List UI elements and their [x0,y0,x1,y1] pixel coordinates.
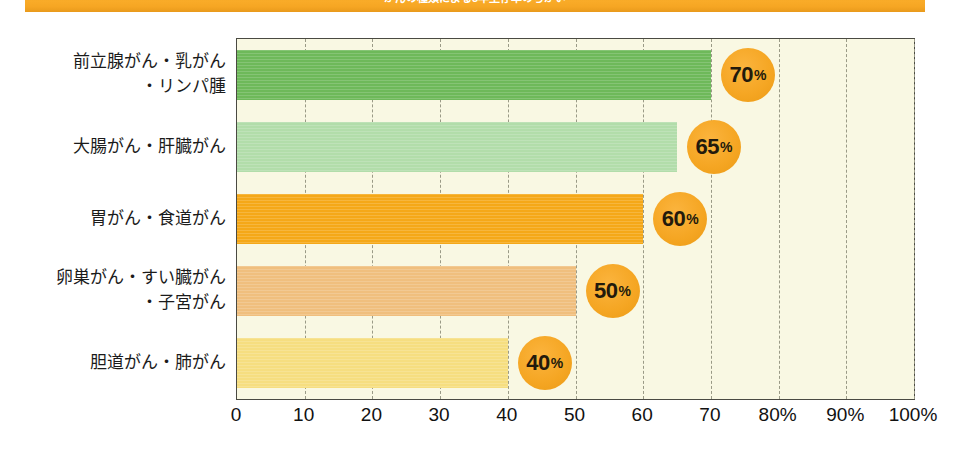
bar-chart: 前立腺がん・乳がん ・リンパ腫大腸がん・肝臓がん胃がん・食道がん卵巣がん・すい臓… [0,0,953,468]
y-axis-label: 大腸がん・肝臓がん [10,134,226,159]
data-label-bubble: 60% [653,192,707,246]
bar-texture [237,122,677,172]
x-axis-tick-label: 100% [889,404,938,426]
data-label-percent-sign: % [754,68,766,82]
gridline [779,39,780,399]
data-label-bubble: 40% [518,336,572,390]
bar [237,266,576,316]
x-axis-tick-label: 50 [564,404,585,426]
data-label-percent-sign: % [720,140,732,154]
bar [237,50,711,100]
bar [237,338,508,388]
bar-texture [237,194,643,244]
bar [237,122,677,172]
x-axis-tick-label: 70 [699,404,720,426]
y-axis-label: 前立腺がん・乳がん ・リンパ腫 [10,49,226,99]
plot-area: 70%65%60%50%40% [236,38,915,400]
bar-texture [237,266,576,316]
x-axis-tick-label: 0 [231,404,242,426]
data-label-percent-sign: % [686,212,698,226]
x-axis-tick-label: 30 [429,404,450,426]
y-axis-label: 胆道がん・肺がん [10,350,226,375]
data-label-value: 50 [594,280,617,302]
gridline [914,39,915,399]
gridline [711,39,712,399]
data-label-bubble: 50% [586,264,640,318]
bar-texture [237,50,711,100]
gridline [846,39,847,399]
x-axis-labels: 01020304050607080%90%100% [236,404,915,434]
y-axis-label: 胃がん・食道がん [10,206,226,231]
bar-texture [237,338,508,388]
data-label-bubble: 70% [721,48,775,102]
y-axis-label: 卵巣がん・すい臓がん ・子宮がん [10,265,226,315]
x-axis-tick-label: 90% [826,404,864,426]
x-axis-tick-label: 10 [293,404,314,426]
bar [237,194,643,244]
x-axis-tick-label: 40 [496,404,517,426]
data-label-percent-sign: % [551,356,563,370]
x-axis-tick-label: 80% [759,404,797,426]
x-axis-tick-label: 20 [361,404,382,426]
data-label-percent-sign: % [619,284,631,298]
data-label-value: 60 [662,208,685,230]
data-label-value: 40 [526,352,549,374]
y-axis-labels: 前立腺がん・乳がん ・リンパ腫大腸がん・肝臓がん胃がん・食道がん卵巣がん・すい臓… [10,38,226,400]
data-label-bubble: 65% [687,120,741,174]
data-label-value: 65 [696,136,719,158]
x-axis-tick-label: 60 [632,404,653,426]
data-label-value: 70 [729,64,752,86]
